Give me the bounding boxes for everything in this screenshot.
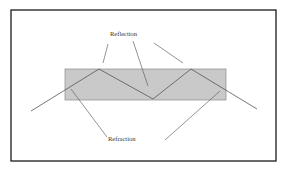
medium-block — [65, 69, 226, 100]
reflection-refraction-diagram: Reflection Refraction — [0, 0, 293, 173]
refraction-label: Refraction — [108, 135, 136, 142]
reflection-label: Reflection — [110, 30, 138, 37]
